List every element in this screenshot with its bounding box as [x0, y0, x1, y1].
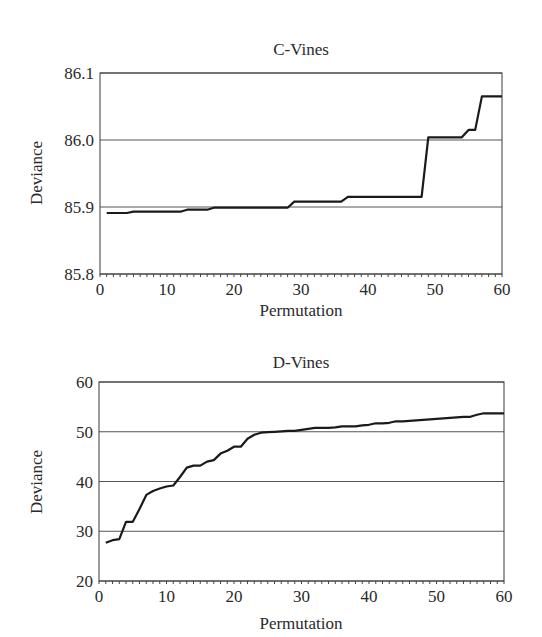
y-tick-label: 86.1: [64, 64, 94, 83]
c-vines-chart: C-Vines 85.885.986.086.1 0102030405060 P…: [0, 0, 542, 320]
x-tick-label: 40: [361, 587, 378, 606]
y-tick-label: 20: [76, 572, 93, 591]
y-gridlines: [100, 73, 502, 274]
x-tick-label: 20: [226, 280, 243, 299]
x-axis-label: Permutation: [259, 301, 343, 320]
chart-title: C-Vines: [273, 40, 329, 59]
x-tick-label: 10: [158, 587, 175, 606]
x-tick-label: 40: [360, 280, 377, 299]
y-tick-labels: 85.885.986.086.1: [64, 64, 94, 284]
x-tick-label: 50: [428, 587, 445, 606]
x-tick-label: 30: [293, 587, 310, 606]
x-tick-label: 10: [159, 280, 176, 299]
y-axis-label: Deviance: [27, 141, 46, 205]
x-tick-label: 0: [95, 587, 104, 606]
x-minor-ticks: [99, 581, 504, 584]
deviance-line: [107, 96, 502, 213]
x-tick-labels: 0102030405060: [96, 280, 511, 299]
y-tick-label: 40: [76, 473, 93, 492]
d-vines-svg: D-Vines 2030405060 0102030405060 Permuta…: [0, 320, 542, 637]
x-tick-labels: 0102030405060: [95, 587, 513, 606]
y-tick-labels: 2030405060: [76, 373, 93, 591]
d-vines-chart: D-Vines 2030405060 0102030405060 Permuta…: [0, 320, 542, 637]
x-tick-label: 60: [496, 587, 513, 606]
x-tick-label: 30: [293, 280, 310, 299]
x-axis-label: Permutation: [259, 614, 343, 633]
y-tick-label: 50: [76, 423, 93, 442]
y-tick-label: 85.9: [64, 198, 94, 217]
y-tick-label: 60: [76, 373, 93, 392]
x-minor-ticks: [100, 274, 502, 277]
x-tick-label: 0: [96, 280, 105, 299]
x-tick-label: 20: [226, 587, 243, 606]
c-vines-svg: C-Vines 85.885.986.086.1 0102030405060 P…: [0, 0, 542, 320]
chart-title: D-Vines: [273, 353, 330, 372]
y-axis-label: Deviance: [27, 450, 46, 514]
plot-frame: [100, 73, 502, 274]
y-tick-label: 30: [76, 522, 93, 541]
y-tick-label: 85.8: [64, 265, 94, 284]
x-tick-label: 60: [494, 280, 511, 299]
y-tick-label: 86.0: [64, 131, 94, 150]
y-gridlines: [99, 382, 504, 581]
deviance-line: [106, 413, 504, 542]
x-tick-label: 50: [427, 280, 444, 299]
